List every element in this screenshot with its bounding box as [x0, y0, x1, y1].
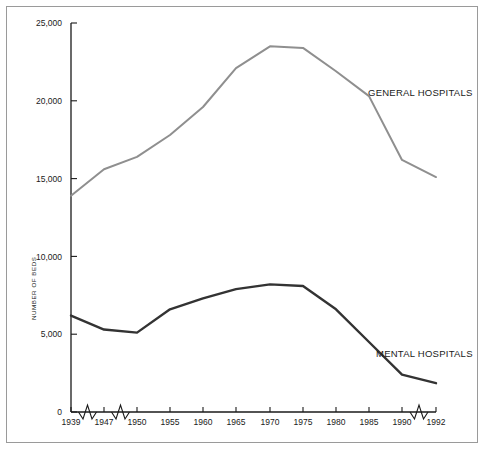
series-annotation: GENERAL HOSPITALS: [368, 87, 473, 98]
series-line-general-hospitals: [71, 46, 436, 195]
line-chart-canvas: 05,00010,00015,00020,00025,000 193919471…: [0, 0, 486, 451]
x-tick-label: 1970: [261, 417, 280, 427]
series-annotation-labels: GENERAL HOSPITALSMENTAL HOSPITALS: [368, 87, 473, 359]
y-tick-label: 10,000: [36, 252, 62, 262]
y-axis-title: NUMBER OF BEDS: [30, 257, 37, 320]
x-tick-label: 1992: [427, 417, 446, 427]
x-tick-label: 1947: [95, 417, 114, 427]
x-tick-label: 1960: [194, 417, 213, 427]
x-tick-label: 1955: [161, 417, 180, 427]
y-tick-label: 0: [57, 407, 62, 417]
x-tick-label: 1965: [227, 417, 246, 427]
chart-figure: 05,00010,00015,00020,00025,000 193919471…: [0, 0, 486, 451]
series-annotation: MENTAL HOSPITALS: [376, 348, 473, 359]
x-tick-label: 1975: [294, 417, 313, 427]
x-tick-label: 1990: [393, 417, 412, 427]
y-tick-label: 25,000: [36, 18, 62, 28]
y-tick-label: 20,000: [36, 96, 62, 106]
x-tick-label: 1950: [128, 417, 147, 427]
y-axis-ticks: [71, 23, 77, 412]
y-axis-tick-labels: 05,00010,00015,00020,00025,000: [36, 18, 62, 417]
x-tick-label: 1939: [62, 417, 81, 427]
series-line-mental-hospitals: [71, 284, 436, 383]
y-tick-label: 5,000: [41, 329, 63, 339]
x-axis-ticks: [71, 407, 436, 412]
x-tick-label: 1985: [360, 417, 379, 427]
x-axis-tick-labels: 1939194719501955196019651970197519801985…: [62, 417, 446, 427]
y-tick-label: 15,000: [36, 174, 62, 184]
x-tick-label: 1980: [327, 417, 346, 427]
